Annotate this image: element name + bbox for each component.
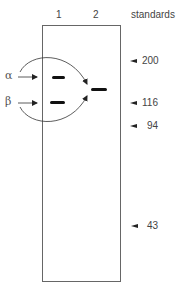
arrows-overlay	[0, 0, 183, 295]
marker-43: 43	[131, 221, 158, 231]
marker-arrow-icon	[130, 101, 137, 105]
marker-arrow-icon	[131, 224, 138, 228]
marker-200: 200	[130, 56, 159, 66]
marker-arrow-icon	[130, 59, 137, 63]
marker-arrow-icon	[130, 124, 137, 128]
beta-curve-arrow-icon	[20, 96, 87, 122]
alpha-curve-arrow-icon	[20, 58, 87, 84]
marker-116: 116	[130, 98, 158, 108]
marker-94: 94	[130, 121, 158, 131]
